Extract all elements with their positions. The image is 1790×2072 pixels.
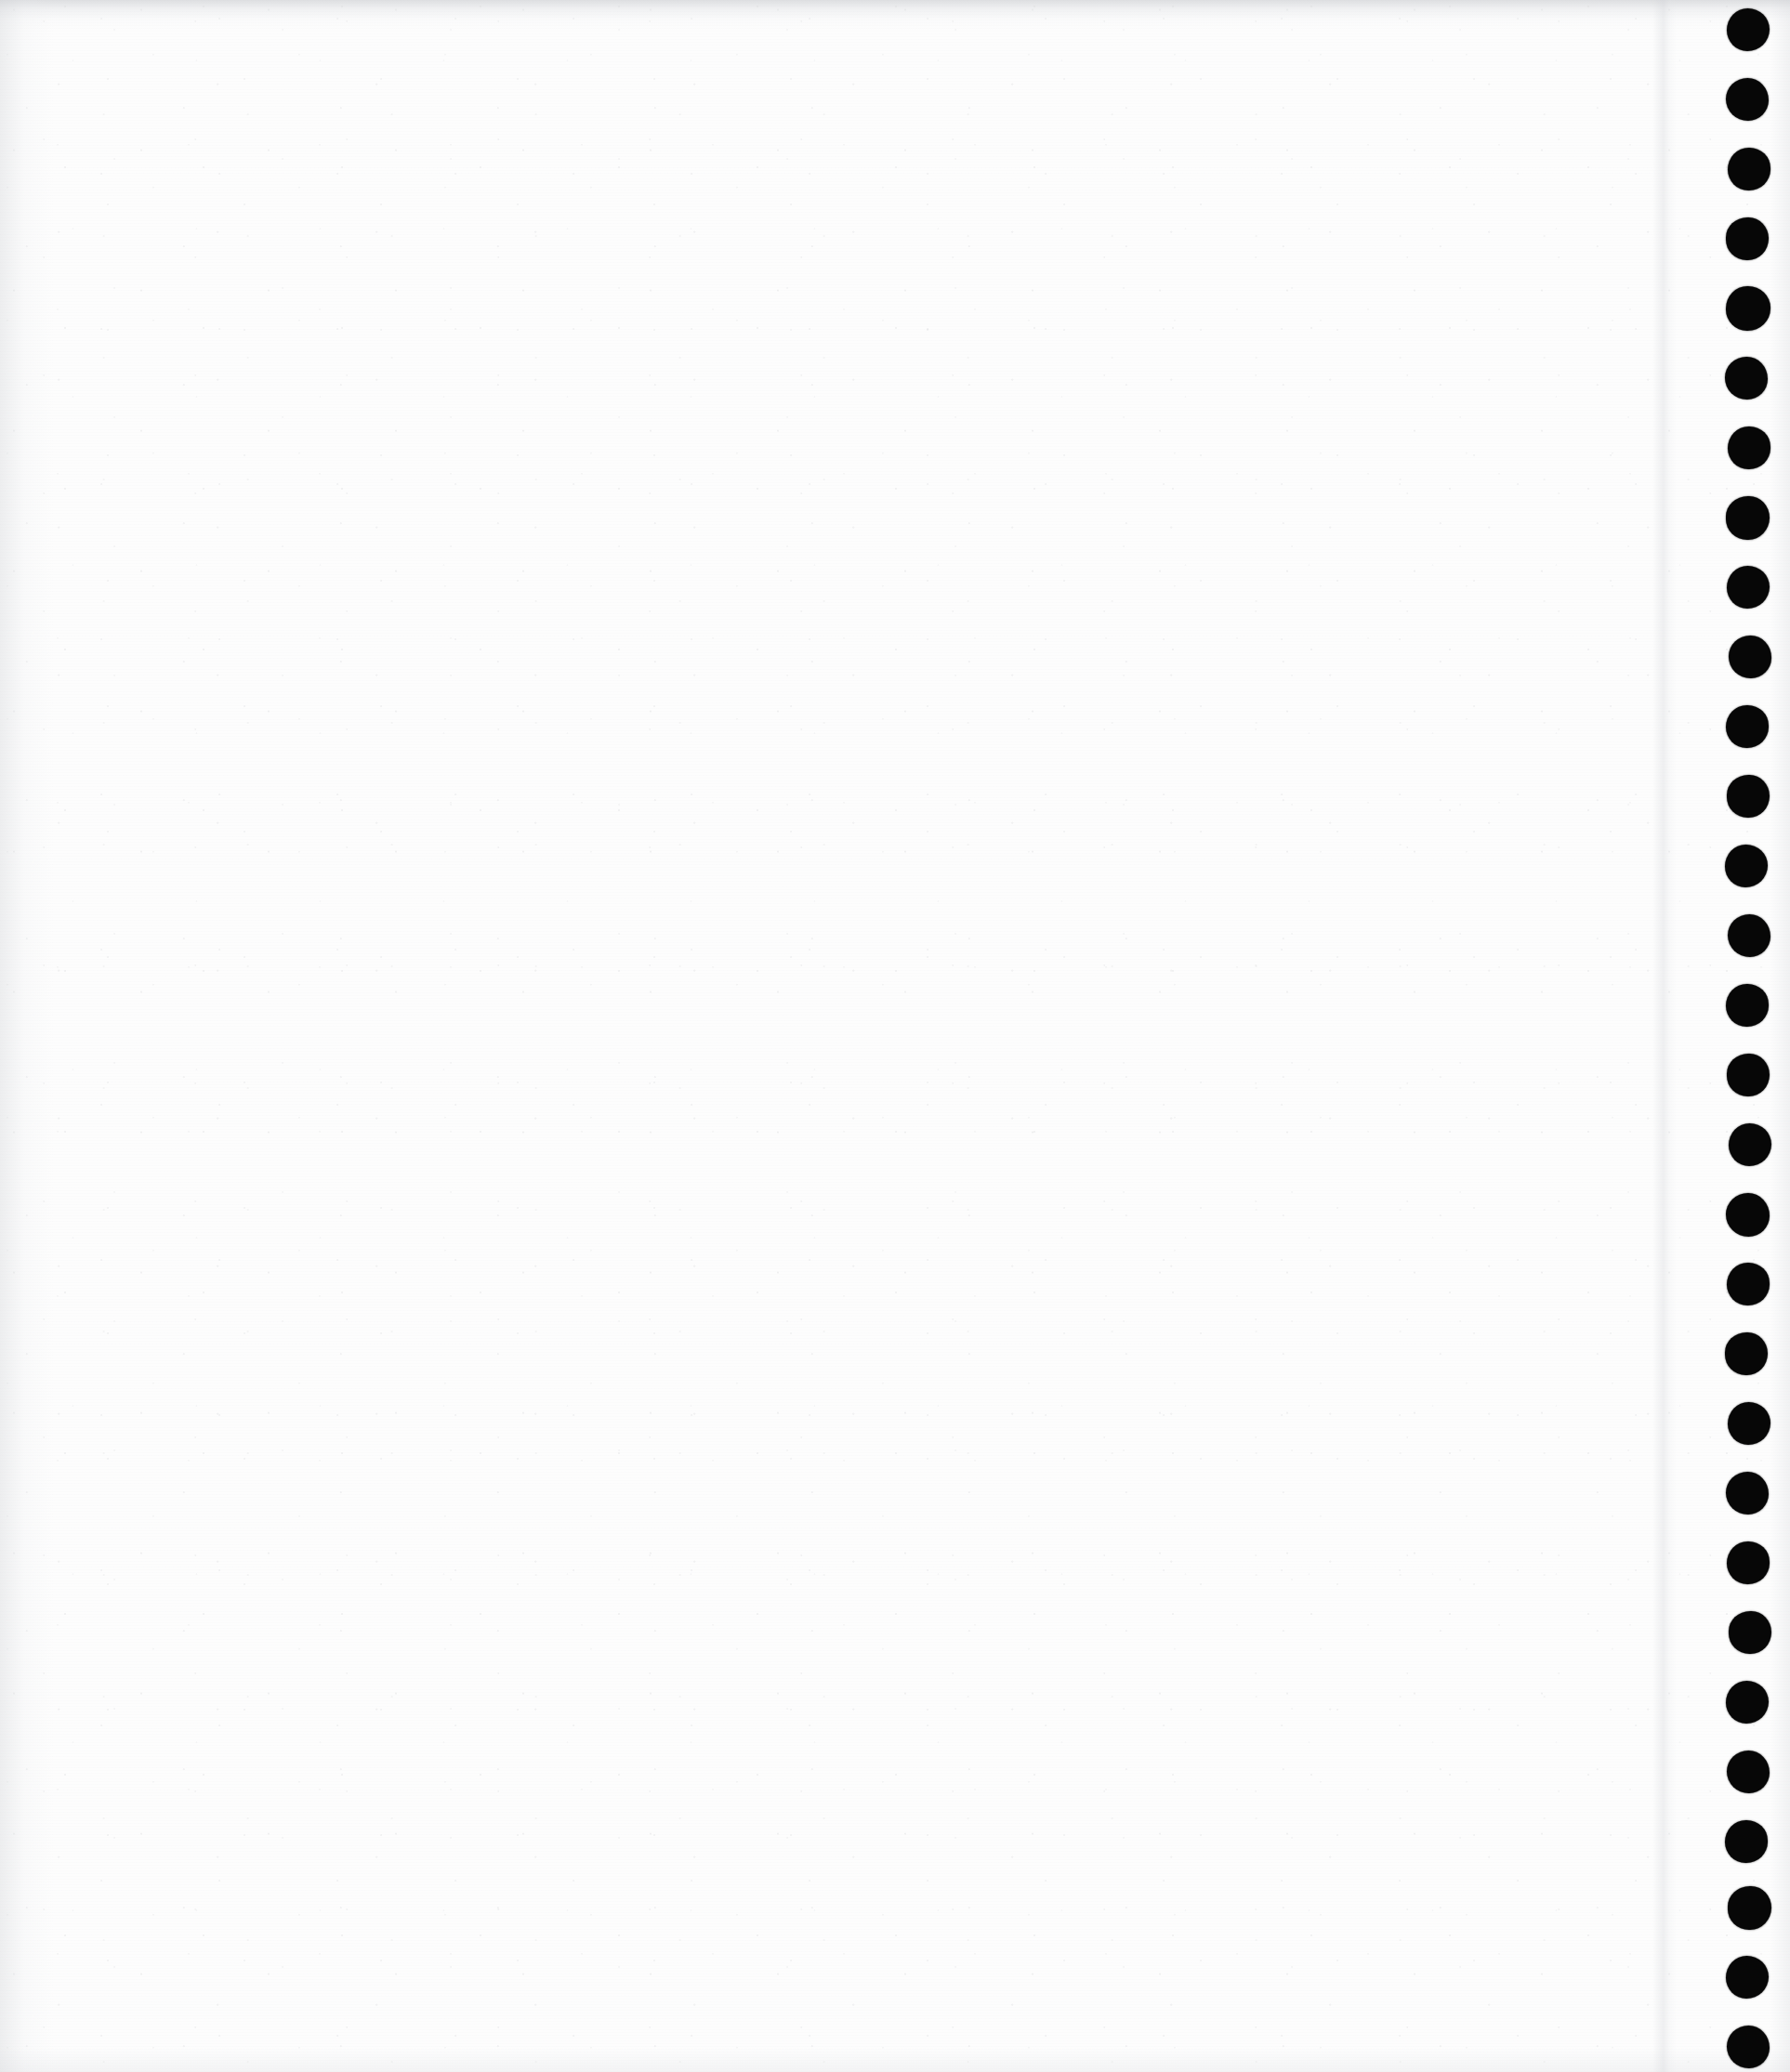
binding-hole [1726,217,1769,260]
binding-hole [1727,1541,1769,1583]
binding-hole [1728,148,1770,190]
page-body-blank-area [0,0,1636,2072]
binding-hole [1725,357,1768,400]
binding-hole [1726,984,1769,1027]
scanned-page [0,0,1790,2072]
binding-hole [1725,845,1768,887]
binding-hole [1728,426,1770,469]
binding-hole [1729,1123,1771,1166]
binding-hole [1729,1611,1772,1655]
binding-hole [1726,78,1769,121]
binding-hole [1727,566,1770,609]
binding-hole [1727,2026,1770,2069]
binding-hole [1726,1472,1769,1515]
binding-hole [1726,286,1770,330]
binding-hole [1726,496,1770,540]
binding-hole [1728,1886,1771,1930]
binding-hole [1726,705,1770,749]
binding-hole [1727,775,1770,818]
binding-hole [1728,1402,1771,1446]
binding-hole [1727,1054,1770,1096]
binding-hole [1727,8,1770,52]
binding-hole [1727,1263,1770,1305]
binding-hole [1725,1332,1768,1375]
binding-hole [1726,1193,1770,1237]
binding-hole [1725,1820,1768,1863]
binding-hole-strip [1660,0,1790,2072]
binding-hole [1726,1681,1769,1724]
binding-hole [1727,1751,1770,1793]
binding-hole [1726,1956,1769,1999]
binding-hole [1729,636,1770,677]
binding-hole [1728,914,1771,958]
